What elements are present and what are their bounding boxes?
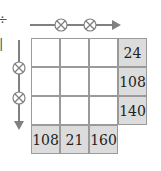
grid-cell-r2c2[interactable] — [89, 96, 118, 125]
grid-cell-r0c1[interactable] — [60, 38, 89, 67]
row-product-0: 24 — [118, 38, 147, 67]
multiply-circle-icon — [55, 19, 67, 31]
vertical-arrow — [13, 40, 25, 130]
grid-cell-r1c0[interactable] — [31, 67, 60, 96]
grid-cell-r2c0[interactable] — [31, 96, 60, 125]
grid-cell-r1c2[interactable] — [89, 67, 118, 96]
grid-cell-r0c2[interactable] — [89, 38, 118, 67]
column-product-1: 21 — [60, 125, 89, 154]
grid-cell-r0c0[interactable] — [31, 38, 60, 67]
column-product-0: 108 — [31, 125, 60, 154]
multiply-circle-icon — [84, 19, 96, 31]
multiply-circle-icon — [13, 92, 25, 104]
arrow-head-right-icon — [112, 20, 121, 30]
horizontal-arrow — [30, 19, 121, 31]
arrow-head-down-icon — [14, 121, 24, 130]
grid-cell-r1c1[interactable] — [60, 67, 89, 96]
column-product-2: 160 — [89, 125, 118, 154]
row-product-2: 140 — [118, 96, 147, 125]
row-product-1: 108 — [118, 67, 147, 96]
multiply-circle-icon — [13, 62, 25, 74]
grid-cell-r2c1[interactable] — [60, 96, 89, 125]
